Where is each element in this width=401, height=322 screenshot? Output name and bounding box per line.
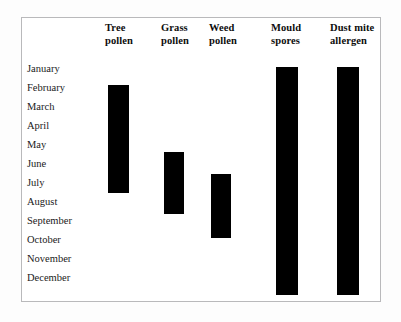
chart-frame: Tree pollen Grass pollen Weed pollen Mou… xyxy=(21,17,381,302)
bar-mould-spores xyxy=(276,67,298,295)
bar-dust-mite-allergen xyxy=(337,67,359,295)
bar-weed-pollen xyxy=(211,174,231,238)
bar-tree-pollen xyxy=(108,85,129,193)
allergen-season-chart: Tree pollen Grass pollen Weed pollen Mou… xyxy=(0,0,401,322)
bar-grass-pollen xyxy=(164,152,184,214)
bars-plot-area xyxy=(22,18,380,301)
